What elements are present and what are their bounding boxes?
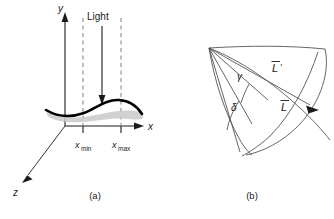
caption-panel-b: (b) — [246, 190, 258, 201]
z-axis — [22, 126, 65, 183]
vector-label-L: L — [281, 101, 290, 114]
delta-lower-ray — [209, 48, 240, 152]
light-label: Light — [87, 11, 109, 22]
inner-crossing-arc-right — [209, 48, 330, 140]
x-axis-label: x — [147, 121, 154, 132]
figure-canvas: y x z Light x min x max (a) — [0, 0, 334, 219]
y-axis — [62, 12, 69, 126]
gamma-angle-arc — [241, 84, 249, 103]
vector-label-L-prime: L ′ — [272, 62, 283, 75]
tick-label-xmin-sub: min — [81, 145, 92, 152]
y-axis-label: y — [57, 3, 64, 14]
tick-label-xmax-sub: max — [118, 145, 131, 152]
vector-label-L-text: L — [281, 101, 287, 113]
light-ray-arrow — [99, 26, 106, 105]
caption-panel-a: (a) — [89, 190, 101, 201]
delta-label: δ — [231, 102, 237, 113]
tick-label-xmin: x min — [74, 140, 92, 152]
tick-label-xmin-base: x — [74, 140, 80, 150]
vector-label-L-prime-text: L — [272, 62, 278, 74]
panel-a: y x z Light x min x max (a) — [12, 3, 154, 201]
figure-root: y x z Light x min x max (a) — [0, 0, 334, 219]
tick-label-xmax-base: x — [111, 140, 117, 150]
gamma-label: γ — [237, 71, 243, 82]
z-axis-label: z — [12, 187, 18, 198]
x-axis — [65, 123, 144, 130]
top-edge-curve — [209, 46, 325, 49]
panel-b: γ δ L ′ L (b) — [209, 46, 330, 201]
tick-label-xmax: x max — [111, 140, 131, 152]
prime-mark-icon: ′ — [280, 62, 282, 72]
